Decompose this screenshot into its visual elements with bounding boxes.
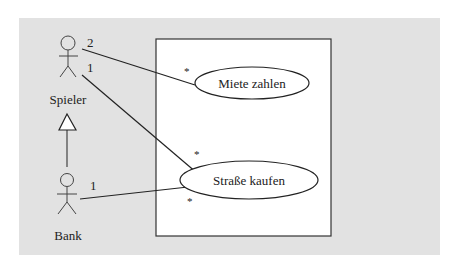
use-case-miete-zahlen[interactable]: Miete zahlen: [195, 67, 309, 99]
stick-figure-icon: [57, 174, 77, 215]
use-case-label: Straße kaufen: [213, 173, 285, 188]
multiplicity-bank-strasse: 1: [90, 178, 97, 193]
multiplicity-spieler-miete: 2: [87, 35, 94, 50]
use-case-strasse-kaufen[interactable]: Straße kaufen: [180, 161, 318, 199]
actor-label: Spieler: [50, 92, 87, 107]
generalization-arrowhead-icon: [59, 114, 76, 130]
multiplicity-miete: *: [184, 65, 190, 77]
stick-figure-icon: [59, 36, 78, 77]
use-case-label: Miete zahlen: [218, 76, 286, 91]
multiplicity-strasse-from-bank: *: [187, 195, 193, 207]
use-case-diagram: Spieler Bank Miete zahlen Straße kaufen …: [0, 0, 454, 269]
multiplicity-spieler-strasse: 1: [87, 60, 94, 75]
actor-spieler[interactable]: Spieler: [50, 36, 87, 107]
actor-label: Bank: [54, 228, 82, 243]
actor-bank[interactable]: Bank: [54, 174, 82, 244]
multiplicity-strasse-from-spieler: *: [194, 148, 200, 160]
